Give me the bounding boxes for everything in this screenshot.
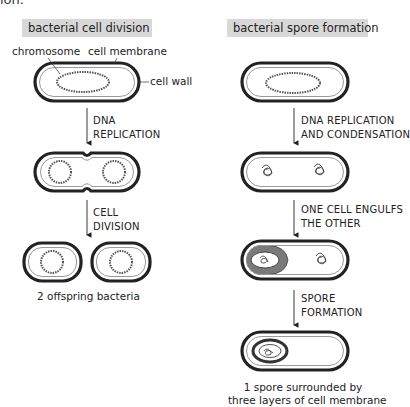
bacterial-cell-icon [242,63,348,101]
spore-cell-icon [242,332,348,370]
dividing-cell-icon [35,153,139,191]
bacterial-cell-icon [35,63,139,101]
engulfing-cell-icon [242,241,348,279]
condensed-dna-cell-icon [242,153,348,191]
offspring-cell-icon [92,243,150,281]
offspring-cell-icon [24,243,81,281]
